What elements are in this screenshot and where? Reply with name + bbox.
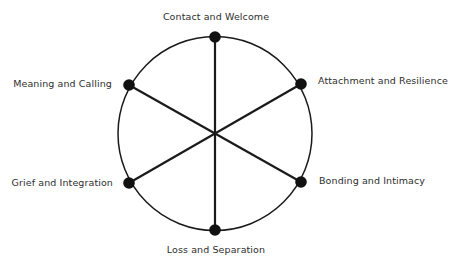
label-bonding-and-intimacy: Bonding and Intimacy <box>319 175 425 187</box>
label-loss-and-separation: Loss and Separation <box>167 244 265 256</box>
diagram-graphic <box>0 0 458 269</box>
label-attachment-and-resilience: Attachment and Resilience <box>318 75 448 87</box>
node-grief-and-integration <box>123 177 135 189</box>
label-meaning-and-calling: Meaning and Calling <box>13 78 112 90</box>
label-contact-and-welcome: Contact and Welcome <box>163 11 269 23</box>
node-attachment-and-resilience <box>295 78 307 90</box>
node-meaning-and-calling <box>123 79 135 91</box>
node-bonding-and-intimacy <box>295 176 307 188</box>
six-domain-circle-diagram: Contact and Welcome Attachment and Resil… <box>0 0 458 269</box>
node-loss-and-separation <box>209 224 221 236</box>
node-contact-and-welcome <box>209 31 221 43</box>
label-grief-and-integration: Grief and Integration <box>12 177 113 189</box>
